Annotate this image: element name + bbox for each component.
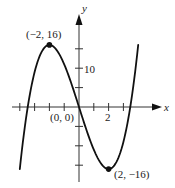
point-marker xyxy=(47,42,53,48)
origin-point-label: (0, 0) xyxy=(50,111,74,124)
x-tick-label-2: 2 xyxy=(105,111,111,123)
point-marker xyxy=(106,166,112,172)
x-axis-label: x xyxy=(163,101,169,113)
y-tick-label-10: 10 xyxy=(84,63,96,75)
max-point-label: (−2, 16) xyxy=(26,28,62,41)
min-point-label: (2, −16) xyxy=(114,168,150,181)
y-axis-arrow-icon xyxy=(76,14,83,25)
cubic-function-graph: x y 2 10 (−2, 16) (0, 0) (2, −16) xyxy=(0,0,175,188)
y-axis-label: y xyxy=(81,2,87,14)
x-axis-arrow-icon xyxy=(152,104,162,111)
